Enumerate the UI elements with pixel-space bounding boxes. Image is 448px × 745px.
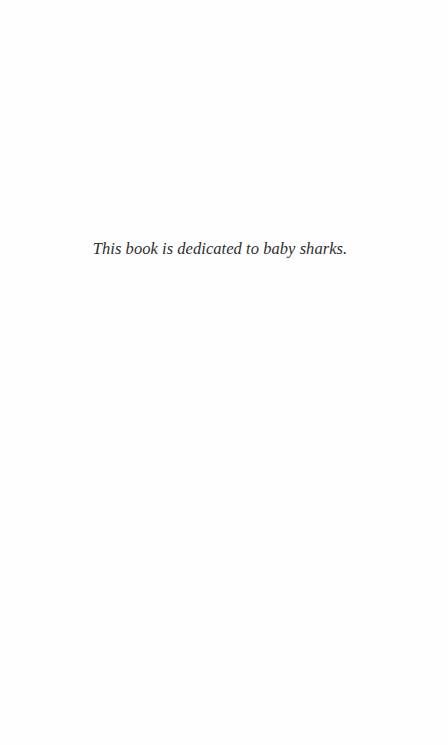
dedication-text: This book is dedicated to baby sharks. xyxy=(0,238,440,260)
book-page: This book is dedicated to baby sharks. xyxy=(0,0,448,745)
